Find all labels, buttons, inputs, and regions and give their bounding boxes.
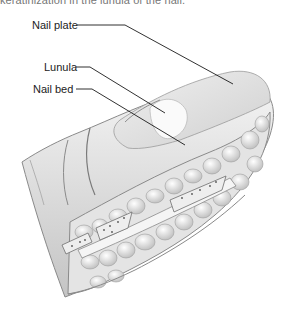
label-lunula: Lunula <box>44 61 77 73</box>
label-nail-plate: Nail plate <box>32 19 78 31</box>
fingertip-illustration <box>0 0 291 317</box>
nail-plate-leader <box>77 25 233 84</box>
label-nail-bed: Nail bed <box>33 83 73 95</box>
